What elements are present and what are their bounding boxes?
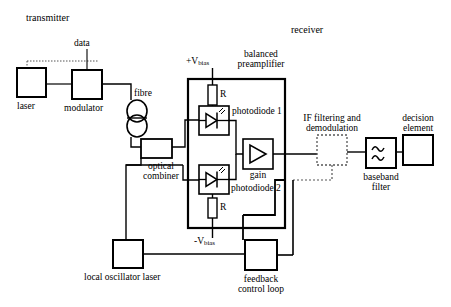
optical-combiner-label-line1: optical (136, 161, 186, 172)
positive-bias-subscript: bias (198, 59, 209, 66)
if-filtering-label-line1: IF filtering and (296, 113, 368, 124)
bias-resistor-bottom (208, 198, 217, 218)
feedback-control-loop-label-line1: feedback (231, 274, 291, 285)
if-filtering-demodulation-block (317, 135, 347, 165)
diagram-canvas (0, 0, 451, 307)
decision-element-block (403, 135, 433, 165)
optical-combiner-block (141, 139, 172, 158)
baseband-filter-block (366, 138, 396, 168)
combiner-to-photodiode1-link (172, 120, 199, 147)
modulator-block (72, 70, 102, 99)
laser-label: laser (17, 101, 35, 112)
positive-bias-label: +Vbias (186, 56, 209, 69)
local-oscillator-laser-block (113, 240, 143, 268)
modulator-label: modulator (64, 103, 103, 114)
photodiode-1-label: photodiode 1 (232, 106, 282, 117)
photodiode-2-label: photodiode 2 (231, 183, 281, 194)
decision-element-label-line2: element (393, 123, 443, 134)
optical-receiver-block-diagram: transmitter receiver data laser modulato… (0, 0, 451, 307)
gain-amplifier-block (243, 139, 273, 169)
balanced-preamplifier-label-line2: preamplifier (226, 59, 296, 70)
baseband-filter-label-line1: baseband (356, 172, 406, 183)
fibre-label: fibre (134, 88, 152, 99)
if-feedback-dotted-tap (293, 165, 332, 180)
local-oscillator-laser-label: local oscillator laser (84, 272, 161, 283)
if-filtering-label-line2: demodulation (296, 123, 368, 134)
photodiode2-to-gain-link (229, 154, 236, 180)
bias-resistor-top (208, 85, 217, 105)
laser-block (17, 68, 46, 97)
optical-combiner-label-line2: combiner (136, 171, 186, 182)
resistor-bottom-label: R (220, 202, 226, 213)
feedback-control-loop-label-line2: control loop (231, 284, 291, 295)
resistor-top-label: R (220, 89, 226, 100)
negative-bias-subscript: bias (204, 239, 215, 246)
gain-label: gain (243, 170, 273, 181)
fibre-to-combiner-link (131, 137, 141, 147)
balanced-preamplifier-label-line1: balanced (226, 49, 296, 60)
modulator-to-fibre-link (102, 84, 131, 100)
data-label: data (74, 38, 90, 49)
negative-bias-prefix: -V (194, 236, 204, 246)
receiver-section-title: receiver (291, 25, 323, 36)
positive-bias-prefix: +V (186, 56, 198, 66)
photodiode1-to-gain-link (229, 121, 243, 155)
transmitter-section-title: transmitter (26, 13, 69, 24)
decision-element-label-line1: decision (393, 113, 443, 124)
baseband-filter-label-line2: filter (356, 182, 406, 193)
feedback-control-loop-block (245, 240, 277, 270)
negative-bias-label: -Vbias (194, 236, 215, 249)
